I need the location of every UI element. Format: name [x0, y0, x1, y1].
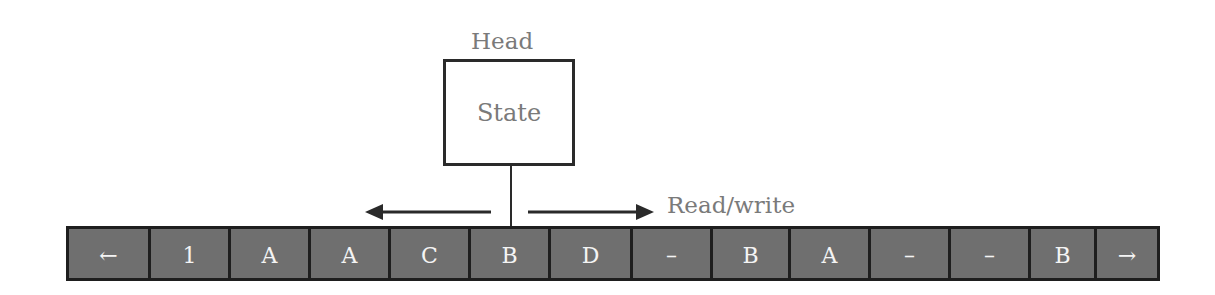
- tape-cell: C: [391, 229, 471, 278]
- tape-cell: D: [551, 229, 633, 278]
- arrow-left-icon: [365, 203, 493, 221]
- tape-cell: B: [713, 229, 791, 278]
- tape-cell: B: [471, 229, 551, 278]
- tape-extends-right-cell: →: [1097, 229, 1157, 278]
- tape-cell: A: [311, 229, 391, 278]
- tape-cell: A: [231, 229, 311, 278]
- tape-cell: A: [791, 229, 871, 278]
- tape-cell: –: [871, 229, 951, 278]
- tape-cell: B: [1031, 229, 1097, 278]
- tape-cell: –: [951, 229, 1031, 278]
- arrow-right-icon: [528, 203, 654, 221]
- state-box: State: [443, 59, 575, 166]
- head-connector-line: [510, 163, 512, 229]
- tape-extends-left-cell: ←: [69, 229, 151, 278]
- state-label: State: [477, 99, 541, 127]
- tape-cell: 1: [151, 229, 231, 278]
- head-label: Head: [471, 28, 533, 54]
- tape: ←1AACBD–BA––B→: [66, 226, 1160, 281]
- read-write-label: Read/write: [667, 192, 795, 218]
- tape-cell: –: [633, 229, 713, 278]
